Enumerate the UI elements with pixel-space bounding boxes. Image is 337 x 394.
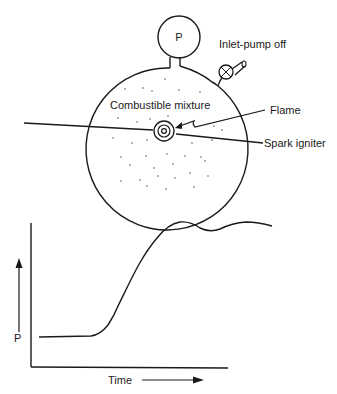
flame-label: Flame	[270, 104, 301, 116]
vessel	[86, 66, 248, 230]
gauge-label: P	[175, 31, 182, 43]
inlet-label: Inlet-pump off	[219, 38, 287, 50]
mixture-label: Combustible mixture	[110, 99, 210, 111]
pressure-gauge: P	[158, 16, 200, 68]
pressure-curve	[39, 222, 272, 337]
x-axis-label: Time	[108, 374, 132, 386]
flame-leader	[177, 110, 265, 127]
y-axis-label: P	[14, 332, 21, 344]
spark-label: Spark igniter	[264, 137, 326, 149]
x-axis	[31, 367, 228, 368]
combustion-diagram: P Inlet-pump off Combustible mixture Spa…	[0, 0, 337, 394]
flame-icon	[154, 121, 174, 141]
igniter-rod-right	[176, 134, 263, 143]
inlet-valve-icon	[218, 61, 246, 86]
pressure-chart: P Time	[14, 222, 272, 386]
